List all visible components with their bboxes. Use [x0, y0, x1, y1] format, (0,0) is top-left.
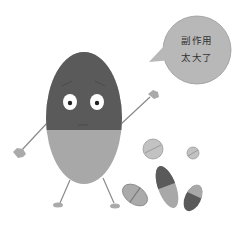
pill-character [40, 40, 130, 184]
speech-line-2: 太大了 [172, 49, 222, 66]
round-pill-large [143, 139, 163, 159]
capsule-pill-center [146, 157, 186, 212]
capsule-pill-right [178, 177, 210, 214]
round-pill-small [187, 147, 199, 159]
speech-bubble-text: 副作用 太大了 [172, 32, 222, 66]
speech-line-1: 副作用 [172, 32, 222, 49]
capsule-pill-left [118, 180, 151, 211]
